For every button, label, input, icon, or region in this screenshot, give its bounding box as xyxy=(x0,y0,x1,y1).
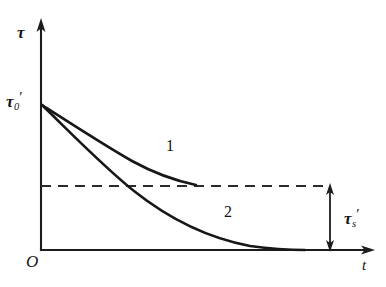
residual-stress-label: τs′ xyxy=(344,206,360,230)
initial-stress-label: τ0′ xyxy=(6,89,23,113)
x-axis-label-text: t xyxy=(362,257,366,273)
stress-relaxation-figure: τ τ0′ O t 1 2 τs′ xyxy=(0,0,386,287)
relaxation-curve-2 xyxy=(42,105,305,250)
initial-stress-prime: ′ xyxy=(19,88,22,105)
y-axis-label: τ xyxy=(17,24,25,41)
y-axis-label-text: τ xyxy=(17,23,25,42)
x-axis-label: t xyxy=(362,258,366,273)
figure-canvas xyxy=(0,0,386,287)
curve-2-label-text: 2 xyxy=(224,203,232,220)
residual-stress-prime: ′ xyxy=(356,205,359,222)
residual-stress-symbol: τ xyxy=(344,209,352,228)
curve-2-label: 2 xyxy=(224,204,232,220)
curve-1-label-text: 1 xyxy=(166,137,174,154)
origin-label-text: O xyxy=(26,252,38,271)
origin-label: O xyxy=(26,253,38,270)
initial-stress-symbol: τ xyxy=(6,92,14,111)
curve-1-label: 1 xyxy=(166,138,174,154)
